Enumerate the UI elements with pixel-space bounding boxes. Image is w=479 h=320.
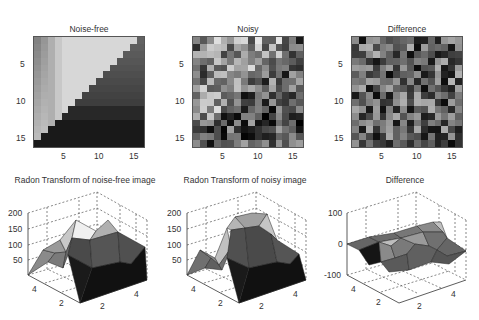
- y-tick-4: 4: [32, 284, 37, 294]
- surface-plots: 200 150 100 50 4 2 2 4: [0, 0, 479, 320]
- z-tick-100: 100: [328, 208, 342, 218]
- z-tick-0: 0: [338, 239, 343, 249]
- z-tick-200: 200: [8, 208, 22, 218]
- x-tick-2: 2: [100, 301, 105, 311]
- y-tick-4: 4: [191, 284, 196, 294]
- x-tick-4: 4: [293, 289, 298, 299]
- z-tick-150: 150: [167, 224, 181, 234]
- x-tick-2: 2: [417, 301, 422, 311]
- z-tick-150: 150: [8, 224, 22, 234]
- x-tick-2: 2: [259, 301, 264, 311]
- z-tick-100: 100: [167, 240, 181, 250]
- x-tick-4: 4: [451, 289, 456, 299]
- z-tick-200: 200: [167, 208, 181, 218]
- z-tick-neg100: -100: [324, 270, 341, 280]
- z-tick-50: 50: [172, 255, 182, 265]
- radon-noise-free-surface: 200 150 100 50 4 2 2 4: [8, 192, 147, 311]
- y-tick-4: 4: [351, 284, 356, 294]
- y-tick-2: 2: [59, 298, 64, 308]
- radon-noisy-surface: 200 150 100 50 4 2 2 4: [167, 192, 306, 311]
- z-tick-50: 50: [13, 255, 23, 265]
- radon-difference-surface: 100 0 -100 4 2 2 4: [324, 192, 466, 311]
- y-tick-2: 2: [376, 297, 381, 307]
- y-tick-2: 2: [218, 298, 223, 308]
- z-tick-100: 100: [8, 240, 22, 250]
- x-tick-4: 4: [134, 289, 139, 299]
